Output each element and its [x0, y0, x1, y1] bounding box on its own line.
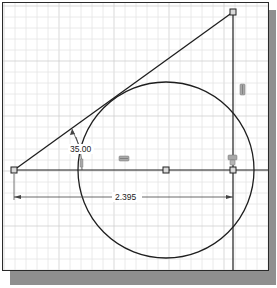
- arrow-right-icon: [226, 195, 233, 199]
- top-endpoint[interactable]: [230, 9, 236, 15]
- sketch-geometry[interactable]: 2.395 35.00: [0, 0, 277, 288]
- linear-dimension-value[interactable]: 2.395: [115, 192, 137, 202]
- tangent-constraint-icon[interactable]: [80, 159, 83, 167]
- linear-dimension[interactable]: 2.395: [14, 174, 233, 202]
- inclined-line[interactable]: [14, 12, 233, 170]
- left-endpoint[interactable]: [11, 167, 17, 173]
- arrow-angle-icon: [70, 129, 75, 135]
- coincident-constraint-icon[interactable]: [228, 155, 237, 165]
- angle-dimension-value[interactable]: 35.00: [70, 144, 92, 154]
- horizontal-constraint-icon[interactable]: [119, 156, 129, 161]
- vertical-constraint-icon[interactable]: [240, 84, 245, 95]
- circle-center-point[interactable]: [163, 167, 169, 173]
- corner-point[interactable]: [230, 167, 236, 173]
- arrow-left-icon: [14, 195, 21, 199]
